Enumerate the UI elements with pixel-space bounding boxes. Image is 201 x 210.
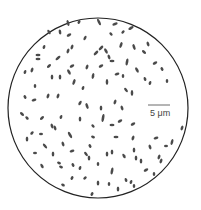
scale-bar-label: 5 μm	[150, 108, 170, 118]
field-of-view	[0, 0, 201, 210]
